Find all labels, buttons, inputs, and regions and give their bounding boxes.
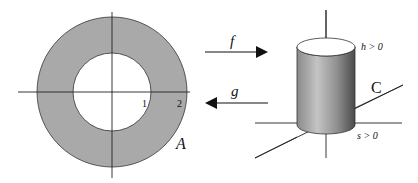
arrow-label-g: g <box>231 83 239 99</box>
cylinder-body <box>297 47 355 134</box>
arrowhead-left-icon <box>205 97 217 109</box>
cylinder-diagram: h > 0 s > 0 C <box>255 10 403 158</box>
figure-canvas: 1 2 A f g h > 0 s > 0 C <box>0 0 418 183</box>
tick-label-2: 2 <box>177 98 182 109</box>
region-label-a: A <box>175 135 186 152</box>
cylinder-top <box>297 38 355 56</box>
annulus-diagram: 1 2 A <box>18 12 190 178</box>
map-arrow-g: g <box>205 83 268 109</box>
bottom-label: s > 0 <box>357 130 378 141</box>
tick-label-1: 1 <box>142 98 147 109</box>
arrowhead-right-icon <box>256 46 268 58</box>
arrow-label-f: f <box>230 33 236 49</box>
map-arrow-f: f <box>205 33 268 58</box>
top-label: h > 0 <box>361 41 383 52</box>
region-label-c: C <box>371 79 382 96</box>
diagonal-axis-back <box>255 137 297 158</box>
